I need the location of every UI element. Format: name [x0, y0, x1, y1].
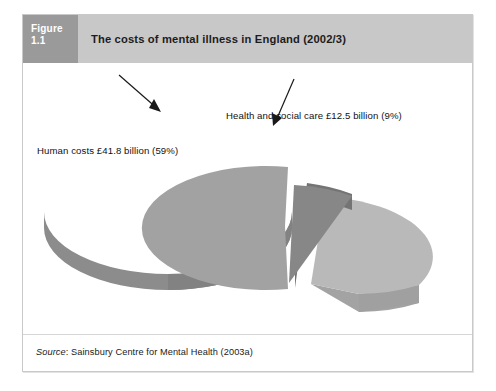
figure-number-word: Figure — [31, 23, 78, 35]
source-text: Sainsbury Centre for Mental Health (2003… — [71, 347, 253, 357]
pie-slice-human-costs — [44, 166, 292, 290]
callout-label-health-and-social-care: Health and social care £12.5 billion (9%… — [226, 110, 402, 121]
source-label: Source — [36, 347, 66, 357]
source-divider — [23, 334, 472, 335]
figure-number-badge: Figure 1.1 — [23, 15, 78, 63]
callout-arrow-human-costs — [119, 75, 161, 112]
figure-container: Figure 1.1 The costs of mental illness i… — [22, 14, 473, 372]
figure-body: Human costs £41.8 billion (59%) Health a… — [23, 63, 472, 371]
source-note: Source: Sainsbury Centre for Mental Heal… — [36, 347, 253, 357]
callout-label-human-costs: Human costs £41.8 billion (59%) — [37, 145, 178, 156]
figure-title: The costs of mental illness in England (… — [91, 15, 346, 63]
figure-number-value: 1.1 — [31, 35, 78, 47]
figure-header: Figure 1.1 The costs of mental illness i… — [23, 15, 472, 63]
